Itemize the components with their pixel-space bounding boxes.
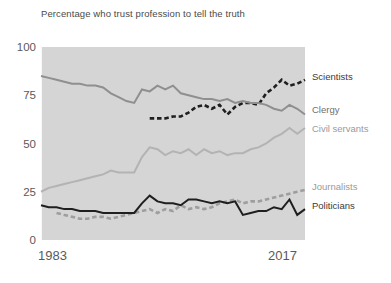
series-label-civil-servants: Civil servants — [312, 123, 369, 134]
plot-area — [0, 0, 391, 283]
series-label-scientists: Scientists — [312, 71, 353, 82]
series-label-politicians: Politicians — [312, 200, 355, 211]
chart-figure: Percentage who trust profession to tell … — [0, 0, 391, 283]
series-label-journalists: Journalists — [312, 181, 357, 192]
series-label-clergy: Clergy — [312, 103, 339, 114]
